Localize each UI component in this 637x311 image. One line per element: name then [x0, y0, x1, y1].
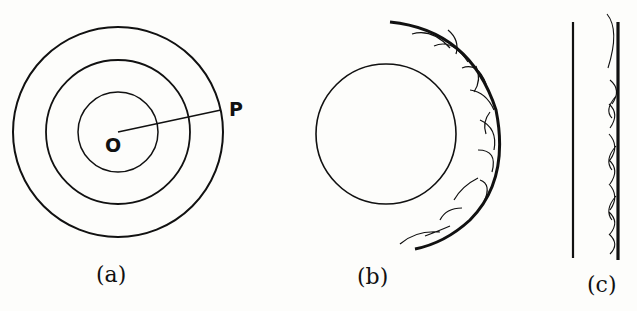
- caption-c: (c): [587, 272, 617, 297]
- primary-spherical-wavefront: [316, 64, 456, 204]
- panel-b-drawing: [316, 22, 500, 249]
- point-P-label: P: [229, 98, 243, 120]
- secondary-wavefront-envelope: [390, 22, 500, 249]
- panel-c-drawing: [573, 14, 618, 260]
- radius-line-OP: [118, 110, 221, 132]
- panel-a-drawing: [13, 27, 223, 237]
- caption-a: (a): [96, 262, 126, 287]
- point-O-label: O: [105, 134, 121, 156]
- huygens-wavefront-figure: O P (a) (b) (c): [0, 0, 637, 311]
- caption-b: (b): [357, 264, 388, 289]
- plane-wavelet-arcs: [607, 14, 617, 254]
- wavelet-arcs: [400, 30, 495, 244]
